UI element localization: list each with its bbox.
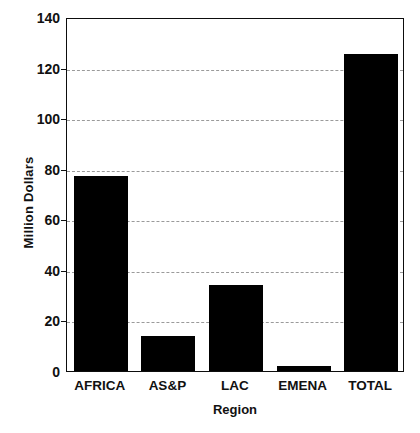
y-tick-label: 20 xyxy=(18,314,60,328)
plot-area xyxy=(66,18,404,372)
x-tick-label-africa: AFRICA xyxy=(66,376,134,396)
y-tick-label: 120 xyxy=(18,62,60,76)
bar-lac xyxy=(209,285,263,371)
bar-total xyxy=(344,54,398,371)
x-axis-tick-labels: AFRICAAS&PLACEMENATOTAL xyxy=(66,376,404,398)
y-tick-label: 140 xyxy=(18,11,60,25)
bar-africa xyxy=(74,176,128,371)
x-tick-label-emena: EMENA xyxy=(269,376,337,396)
x-axis-title: Region xyxy=(66,402,404,417)
x-tick-label-total: TOTAL xyxy=(336,376,404,396)
bar-as-p xyxy=(141,336,195,371)
x-tick-label-lac: LAC xyxy=(201,376,269,396)
bar-emena xyxy=(277,366,331,371)
y-tick-label: 80 xyxy=(18,163,60,177)
y-tick-label: 60 xyxy=(18,213,60,227)
y-tick-label: 0 xyxy=(18,365,60,379)
y-tick-label: 40 xyxy=(18,264,60,278)
y-axis-tick-labels: 020406080100120140 xyxy=(18,0,60,433)
bar-chart: Million Dollars 020406080100120140 AFRIC… xyxy=(0,0,420,433)
x-tick-label-as-p: AS&P xyxy=(134,376,202,396)
y-tick-label: 100 xyxy=(18,112,60,126)
